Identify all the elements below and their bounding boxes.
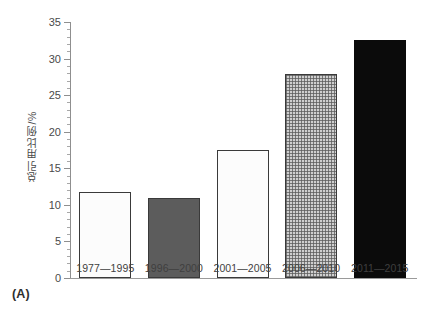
y-tick-mark bbox=[64, 59, 70, 60]
y-minor-tick bbox=[67, 44, 70, 45]
y-tick-mark bbox=[64, 241, 70, 242]
x-axis-line bbox=[66, 278, 417, 279]
bar-2001—2005 bbox=[217, 150, 269, 278]
bar-2011—2015 bbox=[354, 40, 406, 278]
y-minor-tick bbox=[67, 51, 70, 52]
x-tick-label-2011—2015: 2011—2015 bbox=[351, 262, 408, 274]
y-minor-tick bbox=[67, 66, 70, 67]
y-minor-tick bbox=[67, 198, 70, 199]
y-minor-tick bbox=[67, 73, 70, 74]
y-tick-mark bbox=[64, 205, 70, 206]
y-minor-tick bbox=[67, 154, 70, 155]
y-minor-tick bbox=[67, 227, 70, 228]
y-minor-tick bbox=[67, 234, 70, 235]
panel-label: (A) bbox=[12, 287, 30, 301]
x-tick-label-2006—2010: 2006—2010 bbox=[282, 262, 340, 274]
y-tick-mark bbox=[64, 95, 70, 96]
bar-chart-figure: 总引用比例/% 05101520253035 1977—19951996—200… bbox=[0, 0, 426, 319]
y-tick-label: 0 bbox=[55, 272, 61, 284]
y-minor-tick bbox=[67, 88, 70, 89]
y-minor-tick bbox=[67, 256, 70, 257]
y-minor-tick bbox=[67, 271, 70, 272]
y-tick-label: 10 bbox=[49, 199, 61, 211]
y-minor-tick bbox=[67, 161, 70, 162]
y-minor-tick bbox=[67, 146, 70, 147]
y-tick-mark bbox=[64, 168, 70, 169]
y-axis-title: 总引用比例/% bbox=[26, 92, 40, 202]
y-tick-label: 20 bbox=[49, 126, 61, 138]
y-minor-tick bbox=[67, 117, 70, 118]
y-axis-line bbox=[70, 22, 71, 278]
x-tick-label-1996—2000: 1996—2000 bbox=[145, 262, 203, 274]
y-minor-tick bbox=[67, 139, 70, 140]
y-tick-label: 35 bbox=[49, 16, 61, 28]
y-tick-label: 30 bbox=[49, 53, 61, 65]
plot-area: 05101520253035 bbox=[70, 22, 413, 278]
y-minor-tick bbox=[67, 29, 70, 30]
y-tick-mark bbox=[64, 132, 70, 133]
y-minor-tick bbox=[67, 183, 70, 184]
y-minor-tick bbox=[67, 249, 70, 250]
y-minor-tick bbox=[67, 176, 70, 177]
y-minor-tick bbox=[67, 212, 70, 213]
y-tick-mark bbox=[64, 278, 70, 279]
y-minor-tick bbox=[67, 110, 70, 111]
bar-2006—2010 bbox=[285, 74, 337, 278]
y-tick-mark bbox=[64, 22, 70, 23]
y-minor-tick bbox=[67, 263, 70, 264]
x-tick-label-1977—1995: 1977—1995 bbox=[76, 262, 134, 274]
y-minor-tick bbox=[67, 102, 70, 103]
y-tick-label: 15 bbox=[49, 162, 61, 174]
y-minor-tick bbox=[67, 37, 70, 38]
y-minor-tick bbox=[67, 124, 70, 125]
x-tick-label-2001—2005: 2001—2005 bbox=[213, 262, 271, 274]
y-minor-tick bbox=[67, 219, 70, 220]
y-minor-tick bbox=[67, 190, 70, 191]
y-minor-tick bbox=[67, 81, 70, 82]
y-tick-label: 25 bbox=[49, 89, 61, 101]
y-tick-label: 5 bbox=[55, 235, 61, 247]
